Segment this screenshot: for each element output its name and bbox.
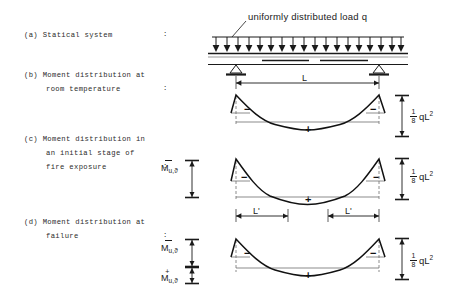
load-distribution-arrows (212, 37, 404, 52)
support-left (226, 65, 246, 75)
diagram-vector-layer (0, 0, 451, 303)
moment-diagram-d (185, 239, 385, 284)
moment-capacity-bracket-d-negative (185, 240, 199, 267)
right-bracket-d (395, 239, 409, 280)
hinge-span-right-dimension (328, 209, 379, 222)
right-bracket-b (395, 96, 409, 137)
moment-diagram-b (231, 95, 385, 130)
right-bracket-c (395, 159, 409, 200)
support-right (369, 65, 389, 75)
figure-canvas: (a) Statical system : (b) Moment distrib… (0, 0, 451, 303)
hinge-span-left-dimension (236, 209, 288, 222)
load-leader-line (232, 21, 246, 37)
moment-capacity-bracket-d-positive (185, 268, 199, 284)
span-dimension-line (236, 76, 379, 89)
beam-element (208, 54, 408, 65)
moment-diagram-c (185, 159, 385, 222)
moment-capacity-bracket-c (185, 161, 199, 198)
